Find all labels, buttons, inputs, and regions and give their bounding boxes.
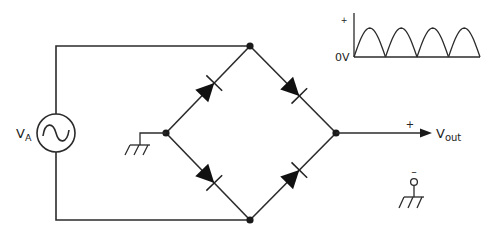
waveform-hump xyxy=(449,28,481,57)
bridge-rectifier-diagram: VA + Vout – xyxy=(0,0,494,236)
sine-wave-icon xyxy=(43,125,69,141)
output-minus-sign: – xyxy=(411,165,417,178)
ac-source: VA xyxy=(16,114,75,152)
waveform-plus-label: + xyxy=(341,16,348,25)
ground-output: – xyxy=(399,165,424,208)
node-bottom xyxy=(246,216,253,223)
waveform-zero-label: 0V xyxy=(335,51,350,64)
ground-hatch-icon xyxy=(125,145,148,155)
source-label: VA xyxy=(16,126,32,143)
node-top xyxy=(246,42,253,49)
ground-left xyxy=(125,133,166,155)
terminal-circle xyxy=(411,179,418,186)
output-arrow-icon xyxy=(420,129,432,138)
diodes-group xyxy=(194,75,307,190)
output: + Vout xyxy=(336,119,461,143)
bridge-wires xyxy=(166,46,336,220)
output-plus-sign: + xyxy=(406,119,414,130)
waveform-humps xyxy=(354,28,480,57)
waveform-hump xyxy=(386,28,418,57)
output-waveform: + 0V xyxy=(335,13,480,64)
ground-hatch-icon xyxy=(399,197,422,208)
output-label: Vout xyxy=(436,126,461,143)
waveform-hump xyxy=(417,28,449,57)
waveform-hump xyxy=(354,28,386,57)
